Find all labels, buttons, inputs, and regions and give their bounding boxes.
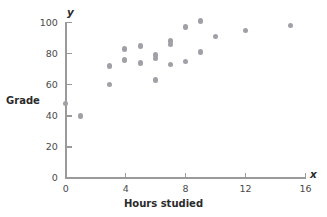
scatter-plot: y x Grade Hours studied 020406080100 048…	[0, 0, 327, 217]
y-tick-mark	[67, 53, 72, 54]
y-tick-label: 40	[32, 111, 58, 121]
data-point	[168, 42, 173, 47]
data-point	[78, 113, 83, 118]
data-point	[153, 77, 158, 82]
y-tick-label: 0	[32, 173, 58, 183]
data-point	[243, 28, 248, 33]
data-point	[198, 49, 203, 54]
x-tick-mark	[305, 173, 306, 178]
y-tick-mark	[67, 178, 72, 179]
x-tick-label: 16	[294, 184, 318, 194]
x-axis-title: Hours studied	[0, 198, 327, 209]
data-point	[107, 63, 112, 68]
y-tick-mark	[67, 22, 72, 23]
data-point	[183, 59, 188, 64]
data-point	[63, 101, 68, 106]
y-tick-mark	[67, 84, 72, 85]
y-tick-label: 20	[32, 142, 58, 152]
x-tick-label: 4	[114, 184, 138, 194]
x-tick-label: 0	[54, 184, 78, 194]
y-axis-symbol: y	[67, 6, 74, 18]
x-tick-mark	[125, 173, 126, 178]
data-point	[122, 46, 127, 51]
x-axis-line	[65, 177, 306, 179]
data-point	[107, 82, 112, 87]
x-axis-symbol: x	[310, 168, 317, 180]
y-tick-mark	[67, 146, 72, 147]
data-point	[153, 56, 158, 61]
y-tick-mark	[67, 115, 72, 116]
x-tick-mark	[245, 173, 246, 178]
data-point	[288, 23, 293, 28]
x-tick-label: 12	[234, 184, 258, 194]
data-point	[213, 34, 218, 39]
x-tick-mark	[185, 173, 186, 178]
y-axis-title: Grade	[6, 95, 40, 106]
data-point	[168, 62, 173, 67]
data-point	[183, 24, 188, 29]
data-point	[122, 57, 127, 62]
y-tick-label: 100	[32, 18, 58, 28]
data-point	[198, 18, 203, 23]
y-tick-label: 80	[32, 49, 58, 59]
y-tick-label: 60	[32, 80, 58, 90]
x-tick-label: 8	[174, 184, 198, 194]
data-point	[138, 43, 143, 48]
data-point	[138, 60, 143, 65]
